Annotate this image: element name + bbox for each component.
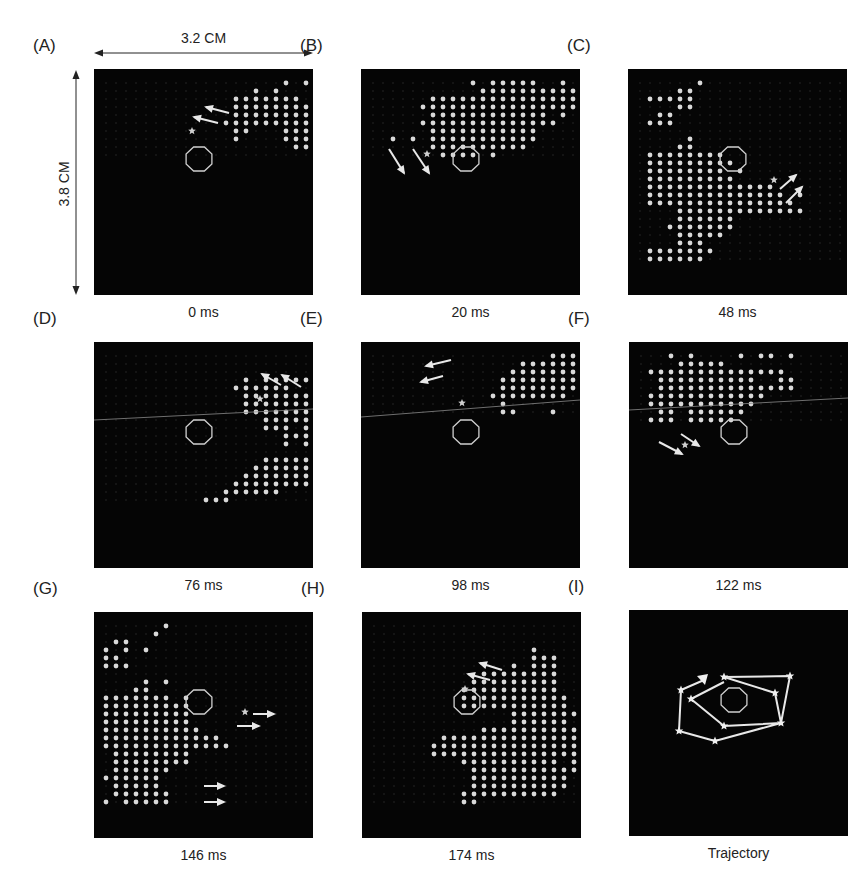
- electrode-array-plot: [94, 612, 313, 838]
- star-marker-icon: [458, 399, 466, 406]
- panel-caption-a: 0 ms: [94, 304, 313, 320]
- octagon-outline-icon: [454, 690, 480, 714]
- electrode-array-plot: [362, 612, 581, 838]
- panel-caption-g: 146 ms: [94, 847, 313, 863]
- panel-f: [629, 342, 848, 568]
- electrode-array-plot: [629, 610, 848, 836]
- panel-label-h: (H): [301, 579, 325, 599]
- star-marker-icon: [188, 127, 196, 134]
- panel-caption-b: 20 ms: [361, 304, 580, 320]
- panel-e: [361, 342, 580, 568]
- panel-h: [362, 612, 581, 838]
- panel-b: [361, 69, 580, 295]
- trajectory-path: [679, 676, 790, 741]
- panel-caption-e: 98 ms: [361, 577, 580, 593]
- panel-d: [94, 342, 313, 568]
- panel-caption-d: 76 ms: [94, 577, 313, 593]
- electrode-array-plot: [94, 342, 313, 568]
- panel-label-a: (A): [33, 36, 56, 56]
- electrode-array-plot: [361, 342, 580, 568]
- octagon-outline-icon: [453, 147, 479, 171]
- panel-caption-f: 122 ms: [629, 577, 848, 593]
- star-marker-icon: [770, 176, 778, 183]
- octagon-outline-icon: [720, 147, 746, 171]
- octagon-outline-icon: [186, 420, 212, 444]
- panel-label-c: (C): [567, 36, 591, 56]
- star-marker-icon: [241, 708, 249, 715]
- panel-label-g: (G): [33, 579, 58, 599]
- width-dimension-label: 3.2 CM: [94, 30, 313, 46]
- star-marker-icon: [423, 150, 431, 157]
- panel-label-f: (F): [568, 309, 590, 329]
- panel-a: [94, 69, 313, 295]
- octagon-outline-icon: [453, 420, 479, 444]
- panel-caption-i: Trajectory: [629, 845, 848, 861]
- panel-label-b: (B): [300, 36, 323, 56]
- electrode-array-plot: [628, 69, 847, 295]
- width-dimension-arrow-icon: [94, 45, 313, 61]
- panel-i: [629, 610, 848, 836]
- trajectory-star-icon: [720, 673, 729, 681]
- panel-c: [628, 69, 847, 295]
- panel-label-d: (D): [33, 309, 57, 329]
- trajectory-star-icon: [675, 727, 684, 735]
- panel-label-e: (E): [300, 309, 323, 329]
- panel-caption-h: 174 ms: [362, 847, 581, 863]
- panel-g: [94, 612, 313, 838]
- panel-caption-c: 48 ms: [628, 304, 847, 320]
- octagon-outline-icon: [186, 147, 212, 171]
- octagon-outline-icon: [721, 688, 747, 712]
- electrode-array-plot: [361, 69, 580, 295]
- panel-label-i: (I): [568, 577, 584, 597]
- electrode-array-plot: [629, 342, 848, 568]
- octagon-outline-icon: [721, 420, 747, 444]
- electrode-array-plot: [94, 69, 313, 295]
- height-dimension-arrow-icon: [66, 70, 86, 295]
- octagon-outline-icon: [186, 690, 212, 714]
- trajectory-star-icon: [711, 737, 720, 745]
- star-marker-icon: [681, 441, 689, 448]
- trajectory-star-icon: [777, 719, 786, 727]
